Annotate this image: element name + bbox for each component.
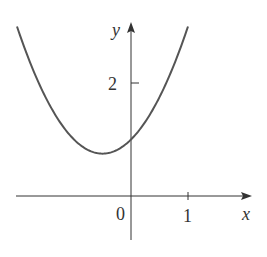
parabola-curve — [17, 27, 188, 154]
x-tick-label-1: 1 — [183, 206, 192, 226]
y-tick-label-2: 2 — [108, 74, 117, 94]
x-axis-label: x — [241, 204, 250, 224]
y-axis-label: y — [110, 20, 120, 40]
origin-label: 0 — [116, 204, 125, 224]
function-plot: y x 2 1 0 — [0, 0, 267, 257]
